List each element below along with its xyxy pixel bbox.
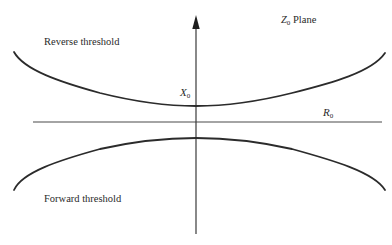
reverse-threshold-label: Reverse threshold: [44, 36, 120, 47]
reverse-threshold-curve: [14, 52, 385, 106]
x0-symbol: X: [180, 86, 187, 98]
forward-threshold-label: Forward threshold: [44, 193, 121, 204]
r0-subscript: 0: [330, 112, 334, 120]
x0-subscript: 0: [187, 92, 191, 100]
x0-axis-label: X0: [180, 86, 190, 100]
plane-label: Z0 Plane: [281, 14, 316, 27]
r0-symbol: R: [323, 106, 330, 118]
r0-axis-label: R0: [323, 106, 333, 120]
plane-label-subscript: 0: [287, 19, 291, 27]
x0-axis-arrow-icon: [192, 15, 199, 29]
plane-label-text: Plane: [293, 14, 316, 25]
forward-threshold-curve: [14, 138, 385, 190]
